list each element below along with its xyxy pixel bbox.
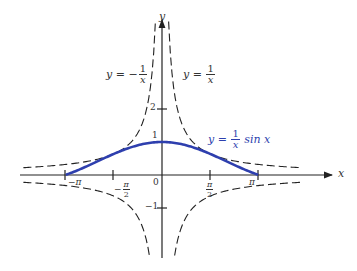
tick-label-neg-pi: −π [68,177,81,187]
plot-area [0,0,357,271]
tick-label-ym1: −1 [145,201,158,211]
neg-half-pi-den: 2 [124,190,129,199]
tick-label-half-pi: π2 [205,180,214,199]
half-pi-den: 2 [207,190,212,199]
y-axis-label: y [159,10,165,23]
neg-recip-sign: − [128,68,137,81]
tick-label-neg-half-pi: −π2 [114,180,131,199]
neg-recip-lhs: y = [106,68,125,81]
label-neg-reciprocal: y = −1x [106,64,148,85]
sinc-lhs: y = [208,133,227,146]
tick-label-pi: π [249,177,255,187]
neg-half-pi-num: π [123,180,130,190]
tick-label-y2: 2 [150,102,156,112]
sinc-rhs: sin x [244,133,270,146]
recip-den: x [208,75,214,85]
sinc-den: x [233,140,239,150]
recip-lhs: y = [183,68,202,81]
half-pi-num: π [206,180,213,190]
label-reciprocal: y = 1x [183,64,216,85]
tick-label-y1: 1 [152,130,158,140]
neg-half-pi-sign: − [114,184,122,194]
x-axis-label: x [338,167,344,180]
label-sinc: y = 1x sin x [208,129,270,150]
neg-recip-den: x [140,75,146,85]
curve-neg-reciprocal-right [175,182,301,255]
tick-label-zero: 0 [153,177,159,187]
